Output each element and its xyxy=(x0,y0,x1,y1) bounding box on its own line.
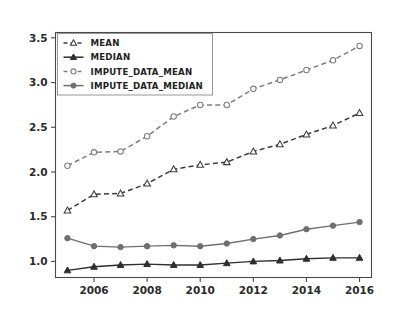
legend-label: IMPUTE_DATA_MEAN xyxy=(91,67,193,77)
data-point-marker xyxy=(251,86,256,91)
data-point-marker xyxy=(118,149,123,154)
data-point-marker xyxy=(356,110,363,116)
data-point-marker xyxy=(144,134,149,139)
x-tick-label: 2014 xyxy=(292,284,321,296)
data-point-marker xyxy=(198,243,203,248)
chart-legend: MEANMEDIANIMPUTE_DATA_MEANIMPUTE_DATA_ME… xyxy=(58,34,213,96)
data-point-marker xyxy=(91,150,96,155)
data-point-marker xyxy=(198,102,203,107)
data-point-marker xyxy=(71,69,76,74)
data-point-marker xyxy=(357,43,362,48)
data-point-marker xyxy=(224,102,229,107)
y-tick-label: 2.5 xyxy=(29,121,48,133)
data-point-marker xyxy=(65,235,70,240)
data-point-marker xyxy=(144,243,149,248)
legend-label: MEAN xyxy=(91,38,120,48)
data-point-marker xyxy=(71,83,76,88)
data-point-marker xyxy=(304,67,309,72)
data-point-marker xyxy=(277,141,284,147)
series-line xyxy=(67,113,359,210)
x-tick-label: 2012 xyxy=(239,284,268,296)
y-tick-label: 1.0 xyxy=(29,255,48,267)
x-tick-label: 2016 xyxy=(345,284,374,296)
data-point-marker xyxy=(357,219,362,224)
series-line xyxy=(67,222,359,247)
data-point-marker xyxy=(330,122,337,128)
data-point-marker xyxy=(118,244,123,249)
data-point-marker xyxy=(171,243,176,248)
y-tick-label: 3.5 xyxy=(29,32,48,44)
data-point-marker xyxy=(144,180,151,186)
data-point-marker xyxy=(65,163,70,168)
data-point-marker xyxy=(91,243,96,248)
x-tick-label: 2006 xyxy=(79,284,108,296)
data-point-marker xyxy=(197,161,204,167)
legend-label: MEDIAN xyxy=(91,52,131,62)
x-tick-label: 2010 xyxy=(186,284,215,296)
series-impute-data-median xyxy=(65,219,363,249)
y-tick-label: 3.0 xyxy=(29,76,48,88)
chart-container: 1.01.52.02.53.03.5 200620082010201220142… xyxy=(0,0,396,310)
data-point-marker xyxy=(224,241,229,246)
y-tick-label: 1.5 xyxy=(29,210,48,222)
data-point-marker xyxy=(330,223,335,228)
data-point-marker xyxy=(171,114,176,119)
y-axis-ticks: 1.01.52.02.53.03.5 xyxy=(29,32,56,268)
line-chart: 1.01.52.02.53.03.5 200620082010201220142… xyxy=(0,0,396,310)
data-point-marker xyxy=(277,233,282,238)
x-tick-label: 2008 xyxy=(132,284,161,296)
data-point-marker xyxy=(277,77,282,82)
data-point-marker xyxy=(251,236,256,241)
data-point-marker xyxy=(64,207,71,213)
data-point-marker xyxy=(330,58,335,63)
y-tick-label: 2.0 xyxy=(29,166,48,178)
series-mean xyxy=(64,110,363,213)
series-median xyxy=(64,254,363,272)
x-axis-ticks: 200620082010201220142016 xyxy=(79,278,374,297)
series-line xyxy=(67,258,359,271)
legend-label: IMPUTE_DATA_MEDIAN xyxy=(91,81,204,91)
data-point-marker xyxy=(304,227,309,232)
